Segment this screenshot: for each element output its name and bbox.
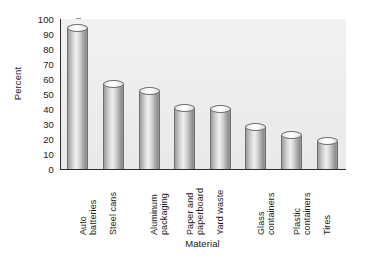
bar-body <box>139 91 160 169</box>
bar <box>103 80 124 170</box>
x-axis-tick-label-line: packaging <box>159 173 169 235</box>
bar-top-ellipse <box>281 131 302 139</box>
bar-body <box>281 135 302 170</box>
y-axis-tick-label: 40 <box>22 104 54 115</box>
y-axis-tick-label: 20 <box>22 134 54 145</box>
y-axis-tick-label: 30 <box>22 119 54 130</box>
bar-body <box>103 84 124 170</box>
x-axis-tick-label: Tires <box>322 173 334 235</box>
bar <box>67 24 88 169</box>
x-axis-tick-label: Aluminumpackaging <box>149 173 161 235</box>
x-axis-tick-label-line: batteries <box>88 173 98 235</box>
bar-top-ellipse <box>139 87 160 95</box>
y-axis-tick-label: 90 <box>22 29 54 40</box>
bar-top-ellipse <box>174 104 195 112</box>
y-axis-tick-label: 60 <box>22 74 54 85</box>
x-axis-tick-label-line: Aluminum <box>149 173 159 235</box>
y-axis-tick-label: 0 <box>22 164 54 175</box>
x-axis-tick-label-line: paperboard <box>195 173 205 235</box>
bar <box>281 131 302 170</box>
x-axis-tick-label-line: containers <box>266 173 276 235</box>
bar <box>317 137 338 170</box>
y-axis-tick-label: 10 <box>22 149 54 160</box>
x-axis-tick-label: Glasscontainers <box>256 173 268 235</box>
bar <box>174 104 195 170</box>
bar-body <box>317 141 338 170</box>
bar <box>210 105 231 169</box>
bar <box>139 87 160 169</box>
bar-top-ellipse <box>103 80 124 88</box>
x-axis-tick-label-line: Steel cans <box>108 173 118 235</box>
y-axis-tick-label: 70 <box>22 59 54 70</box>
y-axis-tick-labels: 0102030405060708090100 <box>22 14 54 170</box>
x-axis-tick-label-line: Tires <box>322 173 332 235</box>
bar-body <box>67 28 88 169</box>
x-axis-tick-label-line: Auto <box>78 173 88 235</box>
bar <box>245 123 266 169</box>
x-axis-tick-label-line: Glass <box>256 173 266 235</box>
bar-chart-figure: Percent 0102030405060708090100 Autobatte… <box>0 0 379 261</box>
x-axis-tick-label-line: containers <box>302 173 312 235</box>
bar-series <box>60 19 345 169</box>
x-axis-tick-label: Steel cans <box>108 173 120 235</box>
x-axis-tick-label: Paper andpaperboard <box>185 173 197 235</box>
x-axis-tick-label-line: Plastic <box>292 173 302 235</box>
bar-body <box>174 108 195 170</box>
y-axis-tick-label: 50 <box>22 89 54 100</box>
x-axis-tick-labels: AutobatteriesSteel cansAluminumpackaging… <box>60 173 345 235</box>
x-axis-tick-label-line: Yard waste <box>215 173 225 235</box>
bar-top-ellipse <box>210 105 231 113</box>
x-axis-tick-label: Yard waste <box>215 173 227 235</box>
bar-body <box>210 109 231 169</box>
bar-top-ellipse <box>317 137 338 145</box>
x-axis-tick-label-line: Paper and <box>185 173 195 235</box>
x-axis-tick-label: Autobatteries <box>78 173 90 235</box>
y-axis-tick-label: 80 <box>22 44 54 55</box>
y-axis-tick-label: 100 <box>22 14 54 25</box>
y-axis-title: Percent <box>12 49 23 119</box>
bar-body <box>245 127 266 169</box>
x-axis-tick-label: Plasticcontainers <box>292 173 304 235</box>
x-axis-title: Material <box>60 238 345 249</box>
